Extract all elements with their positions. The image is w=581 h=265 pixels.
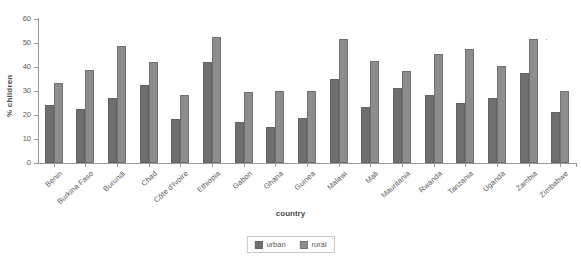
x-tick-mark xyxy=(497,163,498,167)
bar-urban[interactable] xyxy=(108,98,117,163)
y-tick-label: 10 xyxy=(23,134,31,143)
bar-urban[interactable] xyxy=(235,122,244,163)
x-tick-mark xyxy=(117,163,118,167)
bar-rural[interactable] xyxy=(117,46,126,163)
x-tick-mark xyxy=(149,163,150,167)
bar-urban[interactable] xyxy=(140,85,149,163)
bar-group xyxy=(551,19,569,163)
bar-rural[interactable] xyxy=(339,39,348,163)
bar-urban[interactable] xyxy=(203,62,212,163)
y-tick-label: 60 xyxy=(23,14,31,23)
bar-group xyxy=(235,19,253,163)
x-tick-mark xyxy=(212,163,213,167)
bar-group xyxy=(393,19,411,163)
bar-urban[interactable] xyxy=(45,105,54,163)
bar-group xyxy=(330,19,348,163)
bar-group xyxy=(140,19,158,163)
y-tick-mark xyxy=(34,139,38,140)
artifact-speck xyxy=(332,238,333,239)
bar-rural[interactable] xyxy=(434,54,443,163)
bar-urban[interactable] xyxy=(330,79,339,163)
bar-group xyxy=(203,19,221,163)
y-axis-title: % children xyxy=(2,60,16,132)
x-tick-label: Ghana xyxy=(262,169,285,191)
bar-urban[interactable] xyxy=(551,112,560,163)
legend-item-urban[interactable]: urban xyxy=(254,240,285,249)
y-tick-mark xyxy=(34,115,38,116)
legend: urban rural xyxy=(246,236,334,253)
x-tick-mark xyxy=(402,163,403,167)
y-tick-label: 50 xyxy=(23,38,31,47)
bar-rural[interactable] xyxy=(149,62,158,163)
x-tick-mark xyxy=(180,163,181,167)
bar-urban[interactable] xyxy=(361,107,370,163)
y-tick-label: 40 xyxy=(23,62,31,71)
x-tick-mark xyxy=(339,163,340,167)
bar-group xyxy=(361,19,379,163)
bar-group xyxy=(76,19,94,163)
x-tick-label: Guinea xyxy=(293,169,317,192)
x-tick-mark xyxy=(529,163,530,167)
x-tick-mark xyxy=(576,163,577,167)
bar-urban[interactable] xyxy=(76,109,85,163)
bar-rural[interactable] xyxy=(85,70,94,163)
x-tick-label: Malawi xyxy=(325,169,349,192)
x-tick-label: Tanzania xyxy=(446,169,475,196)
urban-swatch-icon xyxy=(254,241,262,249)
bar-group xyxy=(425,19,443,163)
bar-urban[interactable] xyxy=(488,98,497,163)
bar-rural[interactable] xyxy=(54,83,63,163)
x-tick-mark xyxy=(560,163,561,167)
x-tick-label: Rwanda xyxy=(417,169,444,195)
x-tick-label: Gabon xyxy=(231,169,254,191)
legend-item-rural[interactable]: rural xyxy=(300,240,327,249)
y-tick-mark xyxy=(34,91,38,92)
x-tick-mark xyxy=(244,163,245,167)
bar-rural[interactable] xyxy=(465,49,474,163)
artifact-speck xyxy=(546,39,547,40)
bar-rural[interactable] xyxy=(212,37,221,163)
plot-area: 0102030405060 xyxy=(38,19,576,163)
bar-urban[interactable] xyxy=(456,103,465,163)
x-tick-label: Chad xyxy=(139,169,159,188)
bar-rural[interactable] xyxy=(275,91,284,163)
x-tick-label: Burundi xyxy=(101,169,127,193)
y-tick-mark xyxy=(34,163,38,164)
x-tick-mark xyxy=(434,163,435,167)
bar-group xyxy=(108,19,126,163)
legend-label-urban: urban xyxy=(266,240,285,249)
legend-label-rural: rural xyxy=(312,240,327,249)
bar-group xyxy=(298,19,316,163)
bar-urban[interactable] xyxy=(266,127,275,163)
bar-rural[interactable] xyxy=(307,91,316,163)
bar-rural[interactable] xyxy=(180,95,189,163)
x-tick-label: Benin xyxy=(43,169,64,189)
y-tick-mark xyxy=(34,43,38,44)
bar-rural[interactable] xyxy=(529,39,538,163)
x-tick-mark xyxy=(275,163,276,167)
bar-rural[interactable] xyxy=(560,91,569,163)
y-tick-mark xyxy=(34,67,38,68)
bar-rural[interactable] xyxy=(244,92,253,163)
x-tick-label: Ethiopia xyxy=(195,169,222,194)
x-tick-label: Uganda xyxy=(481,169,507,194)
bar-urban[interactable] xyxy=(171,119,180,163)
x-tick-mark xyxy=(465,163,466,167)
bar-group xyxy=(266,19,284,163)
rural-swatch-icon xyxy=(300,241,308,249)
bar-urban[interactable] xyxy=(298,118,307,163)
bar-rural[interactable] xyxy=(402,71,411,163)
bar-rural[interactable] xyxy=(370,61,379,163)
bar-urban[interactable] xyxy=(393,88,402,163)
bar-urban[interactable] xyxy=(425,95,434,163)
bar-urban[interactable] xyxy=(520,73,529,163)
x-axis-title: country xyxy=(0,209,581,218)
x-tick-label: Mauritania xyxy=(379,169,412,200)
bar-group xyxy=(520,19,538,163)
bar-rural[interactable] xyxy=(497,66,506,163)
bar-group xyxy=(456,19,474,163)
x-tick-label: Zimbabwe xyxy=(538,169,570,199)
y-tick-label: 30 xyxy=(23,86,31,95)
x-tick-label: Mali xyxy=(364,169,381,185)
bar-group xyxy=(488,19,506,163)
